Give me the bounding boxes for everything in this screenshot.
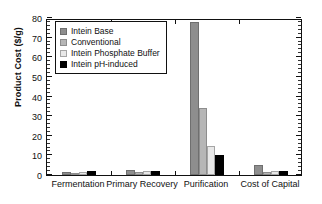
- bar-fermentation-intein-phosphate-buffer: [79, 172, 87, 175]
- bar-primary-recovery-intein-ph-induced: [151, 171, 159, 176]
- bar-fermentation-conventional: [71, 173, 79, 175]
- y-axis-tick-label: 40: [32, 93, 42, 102]
- bar-primary-recovery-intein-phosphate-buffer: [143, 171, 151, 175]
- bar-cost-of-capital-intein-ph-induced: [279, 171, 287, 175]
- bar-purification-intein-ph-induced: [215, 155, 223, 175]
- legend-label: Intein pH-induced: [71, 60, 138, 69]
- bar-primary-recovery-intein-base: [126, 170, 134, 175]
- bar-primary-recovery-conventional: [135, 172, 143, 175]
- x-axis-category-label: Fermentation: [51, 179, 104, 189]
- y-axis-tick-label: 70: [32, 34, 42, 43]
- bar-purification-intein-phosphate-buffer: [207, 146, 215, 175]
- legend-swatch-icon: [60, 50, 67, 57]
- y-axis-tick-label: 50: [32, 73, 42, 82]
- x-axis-category-label: Purification: [184, 179, 229, 189]
- legend-label: Intein Phosphate Buffer: [71, 49, 160, 58]
- y-axis-tick-label: 20: [32, 132, 42, 141]
- y-axis-tick-label: 60: [32, 54, 42, 63]
- legend-label: Intein Base: [71, 27, 114, 36]
- bar-cost-of-capital-intein-phosphate-buffer: [271, 171, 279, 175]
- bar-cost-of-capital-conventional: [263, 172, 271, 175]
- x-axis-category-label: Primary Recovery: [106, 179, 178, 189]
- legend-item: Intein pH-induced: [60, 59, 160, 69]
- bar-purification-intein-base: [190, 22, 198, 175]
- legend-item: Conventional: [60, 37, 160, 47]
- legend-item: Intein Phosphate Buffer: [60, 48, 160, 58]
- bar-chart-figure: Product Cost ($/g) 01020304050607080 Fer…: [0, 0, 322, 204]
- bar-purification-conventional: [199, 108, 207, 175]
- y-axis-major-tick: [47, 17, 52, 18]
- legend-label: Conventional: [71, 38, 121, 47]
- bar-fermentation-intein-ph-induced: [87, 171, 95, 175]
- chart-legend: Intein BaseConventionalIntein Phosphate …: [55, 21, 167, 74]
- y-axis-major-tick: [296, 17, 301, 18]
- y-axis-tick-label: 10: [32, 152, 42, 161]
- bar-cost-of-capital-intein-base: [254, 165, 262, 175]
- y-axis-tick-label: 30: [32, 113, 42, 122]
- legend-swatch-icon: [60, 61, 67, 68]
- legend-swatch-icon: [60, 39, 67, 46]
- bar-fermentation-intein-base: [62, 172, 70, 175]
- legend-item: Intein Base: [60, 26, 160, 36]
- x-axis-category-label: Cost of Capital: [240, 179, 299, 189]
- y-axis-tick-label: 0: [37, 172, 42, 181]
- y-axis-title: Product Cost ($/g): [13, 0, 23, 137]
- y-axis-tick-label: 80: [32, 15, 42, 24]
- legend-swatch-icon: [60, 28, 67, 35]
